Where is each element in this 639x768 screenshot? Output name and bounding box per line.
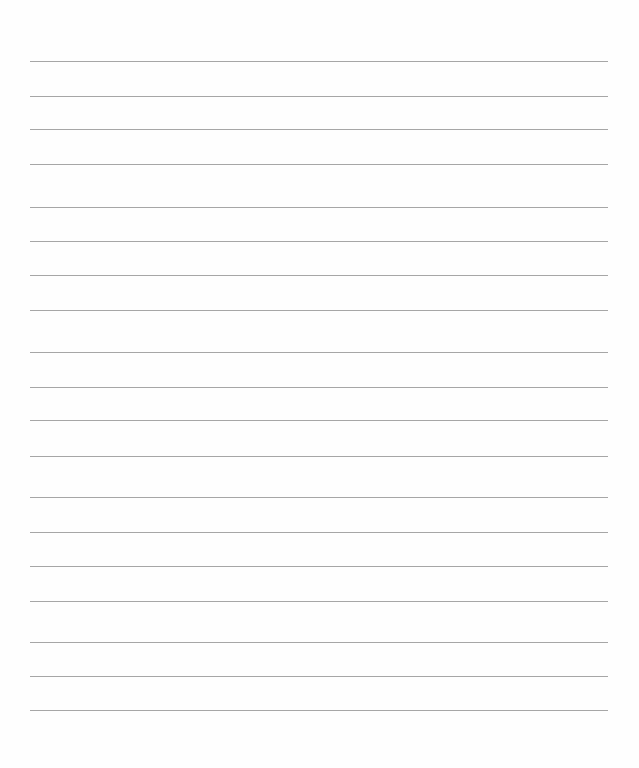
ruled-line xyxy=(30,207,608,208)
ruled-line xyxy=(30,96,608,97)
ruled-line xyxy=(30,420,608,421)
ruled-line xyxy=(30,710,608,711)
ruled-line xyxy=(30,164,608,165)
ruled-line xyxy=(30,352,608,353)
lined-paper-page xyxy=(0,0,639,768)
ruled-line xyxy=(30,275,608,276)
ruled-line xyxy=(30,241,608,242)
ruled-line xyxy=(30,532,608,533)
ruled-line xyxy=(30,601,608,602)
ruled-line xyxy=(30,310,608,311)
ruled-line xyxy=(30,497,608,498)
ruled-line xyxy=(30,566,608,567)
ruled-line xyxy=(30,387,608,388)
ruled-line xyxy=(30,676,608,677)
ruled-line xyxy=(30,61,608,62)
ruled-line xyxy=(30,456,608,457)
ruled-line xyxy=(30,642,608,643)
ruled-line xyxy=(30,129,608,130)
